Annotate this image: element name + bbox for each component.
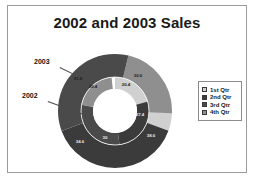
data-label-2002-3rd-qtr: 30 bbox=[103, 136, 108, 140]
legend-swatch-2nd-qtr bbox=[202, 95, 207, 100]
series-callout-2002: 2002 bbox=[22, 92, 38, 99]
data-label-2003-1st-qtr: 30.6 bbox=[134, 74, 143, 78]
legend-label-4th-qtr: 4th Qtr bbox=[210, 109, 230, 115]
legend-item-2nd-qtr: 2nd Qtr bbox=[202, 94, 238, 100]
legend-label-1st-qtr: 1st Qtr bbox=[210, 87, 229, 93]
data-label-2003-3rd-qtr: 34.6 bbox=[76, 140, 85, 144]
chart-legend: 1st Qtr 2nd Qtr 3rd Qtr 4th Qtr bbox=[198, 81, 242, 121]
legend-item-1st-qtr: 1st Qtr bbox=[202, 87, 238, 93]
doughnut-hole bbox=[93, 89, 137, 133]
data-label-2003-2nd-qtr: 38.6 bbox=[147, 134, 156, 138]
legend-label-2nd-qtr: 2nd Qtr bbox=[210, 94, 231, 100]
data-label-2002-4th-qtr: 20.4 bbox=[89, 85, 98, 89]
legend-swatch-4th-qtr bbox=[202, 110, 207, 115]
legend-item-4th-qtr: 4th Qtr bbox=[202, 109, 238, 115]
chart-frame: 2002 and 2003 Sales bbox=[7, 5, 247, 173]
legend-swatch-3rd-qtr bbox=[202, 102, 207, 107]
data-label-2002-1st-qtr: 20.4 bbox=[122, 83, 131, 87]
legend-swatch-1st-qtr bbox=[202, 87, 207, 92]
legend-item-3rd-qtr: 3rd Qtr bbox=[202, 102, 238, 108]
data-label-2003-4th-qtr: 21.8 bbox=[74, 77, 83, 81]
legend-label-3rd-qtr: 3rd Qtr bbox=[210, 102, 230, 108]
data-label-2002-2nd-qtr: 27.4 bbox=[136, 113, 145, 117]
series-callout-2003: 2003 bbox=[34, 58, 50, 65]
chart-title: 2002 and 2003 Sales bbox=[8, 14, 246, 31]
